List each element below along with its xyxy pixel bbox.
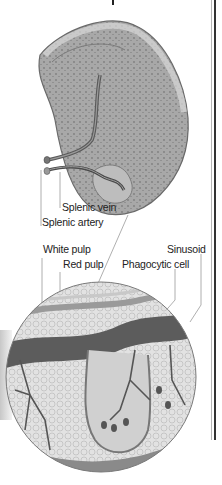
label-splenic-artery: Splenic artery xyxy=(42,216,103,228)
label-splenic-vein: Splenic vein xyxy=(62,201,116,213)
page-divider-thick xyxy=(214,0,216,440)
label-sinusoid: Sinusoid xyxy=(167,243,206,255)
page-divider-thin xyxy=(211,0,212,440)
spleen-diagram: Splenic vein Splenic artery White pulp R… xyxy=(0,0,222,485)
label-phagocytic-cell: Phagocytic cell xyxy=(122,258,189,270)
label-white-pulp: White pulp xyxy=(43,243,91,255)
spleen-organ xyxy=(39,21,188,215)
label-red-pulp: Red pulp xyxy=(63,258,103,270)
